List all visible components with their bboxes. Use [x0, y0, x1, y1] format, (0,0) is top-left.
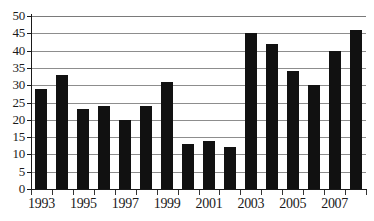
- bar-chart-figure: 05101520253035404550 1993199519971999200…: [0, 0, 374, 221]
- bar: [266, 44, 278, 189]
- y-tick-15: [27, 137, 32, 138]
- y-tick-10: [27, 154, 32, 155]
- x-tick: [219, 190, 220, 195]
- y-tick-35: [27, 68, 32, 69]
- x-tick: [303, 190, 304, 195]
- bar: [245, 33, 257, 189]
- bar: [308, 85, 320, 189]
- y-axis-tick-label: 30: [1, 78, 25, 91]
- x-tick: [199, 190, 200, 195]
- x-axis-tick-label: 1997: [102, 196, 148, 212]
- x-axis-tick-label: 2003: [228, 196, 274, 212]
- bar: [182, 144, 194, 189]
- x-axis-tick-label: 1995: [60, 196, 106, 212]
- y-axis-tick-label: 5: [1, 165, 25, 178]
- y-tick-25: [27, 103, 32, 104]
- x-axis-tick-label: 2001: [186, 196, 232, 212]
- x-tick: [261, 190, 262, 195]
- x-tick: [73, 190, 74, 195]
- x-axis-tick-label: 1993: [18, 196, 64, 212]
- y-tick-5: [27, 172, 32, 173]
- y-axis-tick-label: 35: [1, 61, 25, 74]
- x-tick: [94, 190, 95, 195]
- bar: [329, 51, 341, 189]
- bar: [35, 89, 47, 189]
- y-tick-50: [27, 16, 32, 17]
- bar: [98, 106, 110, 189]
- bar: [77, 109, 89, 189]
- x-tick: [240, 190, 241, 195]
- y-axis-tick-label: 25: [1, 96, 25, 109]
- bar: [350, 30, 362, 189]
- plot-area: [31, 16, 366, 189]
- bar: [161, 82, 173, 189]
- x-tick: [115, 190, 116, 195]
- x-tick: [31, 190, 32, 195]
- bar: [119, 120, 131, 189]
- bar: [140, 106, 152, 189]
- x-tick: [366, 190, 367, 195]
- x-tick: [136, 190, 137, 195]
- x-tick: [157, 190, 158, 195]
- y-axis-tick-label: 40: [1, 44, 25, 57]
- x-tick: [345, 190, 346, 195]
- y-axis-labels: 05101520253035404550: [0, 0, 25, 221]
- bar: [56, 75, 68, 189]
- bar: [203, 141, 215, 189]
- x-axis-tick-label: 1999: [144, 196, 190, 212]
- x-axis-tick-label: 2007: [312, 196, 358, 212]
- y-tick-30: [27, 85, 32, 86]
- y-axis-tick-label: 20: [1, 113, 25, 126]
- y-axis-tick-label: 50: [1, 9, 25, 22]
- y-axis-tick-label: 45: [1, 26, 25, 39]
- x-tick: [282, 190, 283, 195]
- bar: [224, 147, 236, 189]
- y-axis-tick-label: 0: [1, 182, 25, 195]
- bar: [287, 71, 299, 189]
- x-tick: [178, 190, 179, 195]
- y-tick-40: [27, 51, 32, 52]
- x-tick: [324, 190, 325, 195]
- x-tick: [52, 190, 53, 195]
- y-tick-45: [27, 33, 32, 34]
- y-axis-tick-label: 10: [1, 147, 25, 160]
- y-tick-20: [27, 120, 32, 121]
- bars-group: [31, 16, 366, 189]
- x-axis-tick-label: 2005: [270, 196, 316, 212]
- y-axis-tick-label: 15: [1, 130, 25, 143]
